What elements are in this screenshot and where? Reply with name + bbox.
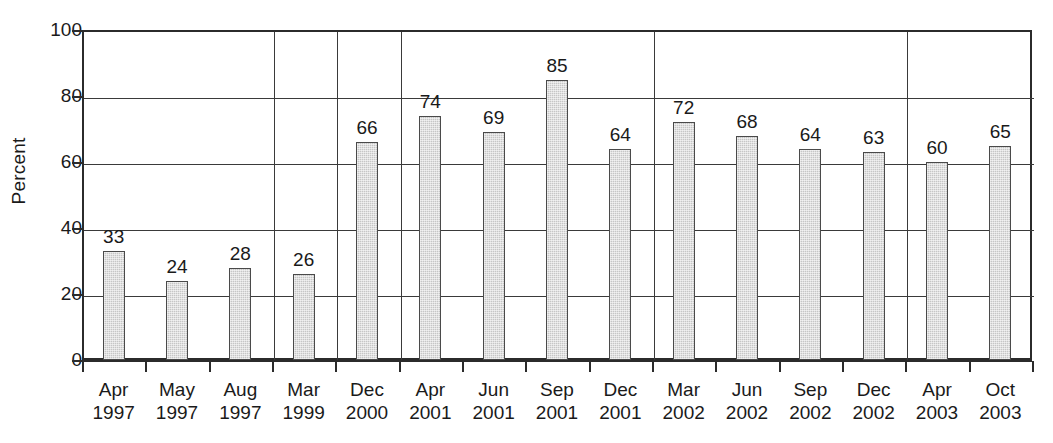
x-axis-tick-mark xyxy=(589,361,591,372)
x-axis-tick-label-month: Apr xyxy=(416,379,446,400)
x-axis-line xyxy=(82,360,1032,362)
x-axis-tick-label-month: Mar xyxy=(667,379,700,400)
bar xyxy=(356,142,378,360)
x-axis-tick-label-month: Dec xyxy=(857,379,891,400)
bar-value-label: 60 xyxy=(907,138,967,157)
bar xyxy=(736,136,758,360)
bar-value-label: 65 xyxy=(970,122,1030,141)
x-axis-tick-label-month: Dec xyxy=(603,379,637,400)
bar xyxy=(103,251,125,360)
bar xyxy=(419,116,441,360)
x-axis-tick-label-month: Apr xyxy=(99,379,129,400)
bar-value-label: 24 xyxy=(147,257,207,276)
x-axis-tick-mark xyxy=(82,361,84,372)
x-axis-tick-mark xyxy=(145,361,147,372)
x-axis-tick-label-month: Mar xyxy=(287,379,320,400)
x-axis-tick-mark xyxy=(272,361,274,372)
gridline-vertical xyxy=(654,32,655,362)
bar-value-label: 64 xyxy=(590,125,650,144)
x-axis-tick-label-month: Sep xyxy=(540,379,574,400)
bar xyxy=(926,162,948,360)
x-axis-tick-mark xyxy=(209,361,211,372)
x-axis-tick-mark xyxy=(1032,361,1034,372)
x-axis-tick-label-month: Aug xyxy=(223,379,257,400)
x-axis-tick-mark xyxy=(652,361,654,372)
bar-value-label: 72 xyxy=(654,98,714,117)
x-axis-tick-mark xyxy=(462,361,464,372)
bar xyxy=(799,149,821,360)
gridline-vertical xyxy=(907,32,908,362)
x-axis-tick-label-month: Jun xyxy=(478,379,509,400)
bar-value-label: 63 xyxy=(844,128,904,147)
bar-value-label: 69 xyxy=(464,108,524,127)
x-axis-tick-label-month: Oct xyxy=(986,379,1016,400)
x-axis-tick-label-month: Apr xyxy=(922,379,952,400)
gridline-vertical xyxy=(337,32,338,362)
bar xyxy=(609,149,631,360)
x-axis-tick-mark xyxy=(842,361,844,372)
x-axis-tick-label-month: Jun xyxy=(732,379,763,400)
x-axis-tick-label-month: Sep xyxy=(793,379,827,400)
x-axis-tick-mark xyxy=(525,361,527,372)
bar-value-label: 85 xyxy=(527,56,587,75)
bar-value-label: 74 xyxy=(400,92,460,111)
bar xyxy=(229,268,251,360)
x-axis-tick-label-month: May xyxy=(159,379,195,400)
x-axis-tick-label-month: Dec xyxy=(350,379,384,400)
x-axis-tick-label: Oct2003 xyxy=(957,378,1043,424)
bar xyxy=(546,80,568,361)
gridline-vertical xyxy=(401,32,402,362)
bar xyxy=(673,122,695,360)
x-axis-tick-mark xyxy=(905,361,907,372)
x-axis-tick-mark xyxy=(969,361,971,372)
x-axis-tick-mark xyxy=(715,361,717,372)
bar xyxy=(863,152,885,360)
y-axis-ticks: 020406080100 xyxy=(0,0,82,443)
bar xyxy=(293,274,315,360)
x-axis-tick-label-year: 2003 xyxy=(957,401,1043,424)
bar xyxy=(989,146,1011,361)
bar-value-label: 33 xyxy=(84,227,144,246)
bar-value-label: 68 xyxy=(717,112,777,131)
x-axis-tick-mark xyxy=(335,361,337,372)
bar xyxy=(166,281,188,360)
bar-value-label: 64 xyxy=(780,125,840,144)
bar xyxy=(483,132,505,360)
bar-value-label: 28 xyxy=(210,244,270,263)
x-axis-tick-mark xyxy=(399,361,401,372)
gridline-vertical xyxy=(274,32,275,362)
bar-value-label: 66 xyxy=(337,118,397,137)
bar-chart: Percent 020406080100 Apr1997May1997Aug19… xyxy=(0,0,1053,443)
bar-value-label: 26 xyxy=(274,250,334,269)
x-axis-tick-mark xyxy=(779,361,781,372)
